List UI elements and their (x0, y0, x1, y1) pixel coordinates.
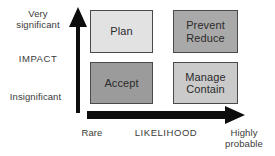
right-arrow-icon (85, 105, 247, 125)
y-axis-title: IMPACT (6, 53, 70, 64)
matrix-cell-label: Manage Contain (185, 71, 225, 96)
x-axis-title: LIKELIHOOD (127, 127, 205, 138)
y-axis-bottom-label: Insignificant (0, 91, 71, 102)
matrix-cell-label: Accept (104, 77, 138, 90)
risk-matrix-diagram: Very significant IMPACT Insignificant Ra… (0, 0, 275, 156)
matrix-cell-accept[interactable]: Accept (90, 62, 153, 104)
x-axis-end-label: Highly probable (214, 127, 274, 149)
matrix-cell-manage-contain[interactable]: Manage Contain (173, 62, 238, 104)
y-axis-top-label: Very significant (6, 8, 70, 30)
matrix-cell-label: Prevent Reduce (186, 19, 225, 44)
matrix-cell-prevent-reduce[interactable]: Prevent Reduce (173, 10, 238, 53)
x-axis-start-label: Rare (72, 127, 112, 138)
matrix-cell-label: Plan (110, 25, 132, 38)
matrix-cell-plan[interactable]: Plan (90, 10, 153, 53)
